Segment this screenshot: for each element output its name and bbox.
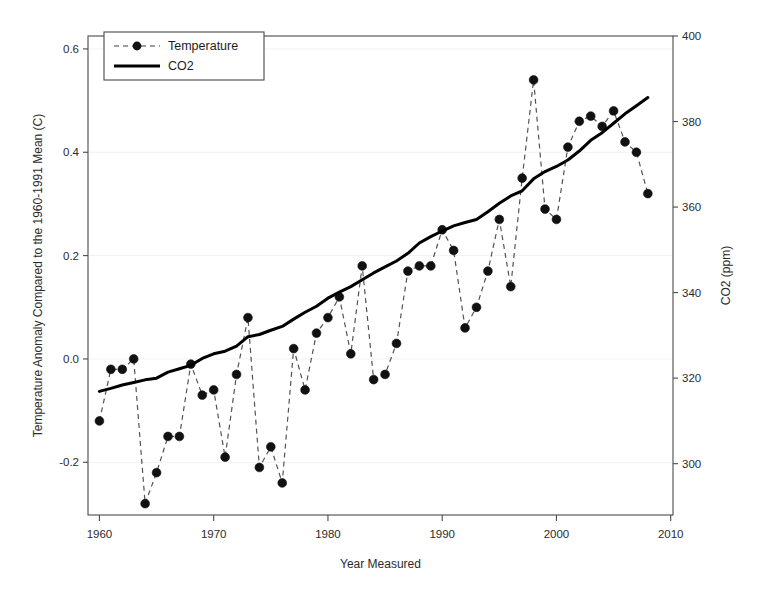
temperature-data-point [381,370,390,379]
temperature-data-point [518,174,527,183]
x-axis-tick-label: 2010 [658,528,684,540]
y2-axis-tick-label: 400 [682,30,701,42]
temperature-data-point [506,282,515,291]
temperature-data-point [609,107,618,116]
temperature-data-point [392,339,401,348]
y2-axis-tick-label: 380 [682,116,701,128]
temperature-data-point [106,365,115,374]
temperature-data-point [209,386,218,395]
x-axis-tick-label: 1970 [201,528,227,540]
temperature-data-point [141,499,150,508]
temperature-data-point [95,417,104,426]
x-axis-title: Year Measured [340,557,421,571]
y-axis-tick-label: 0.0 [63,353,79,365]
temperature-data-point [632,148,641,157]
temperature-data-point [129,355,138,364]
x-axis-tick-label: 1990 [429,528,455,540]
temperature-data-point [575,117,584,126]
legend-temperature-label: Temperature [168,39,238,53]
y2-axis-tick-label: 340 [682,287,701,299]
co2-temperature-line-chart: -0.20.00.20.40.6300320340360380400196019… [0,0,758,592]
y-axis-title: Temperature Anomaly Compared to the 1960… [31,114,45,438]
legend-temperature-marker-swatch [133,42,142,51]
temperature-data-point [495,215,504,224]
temperature-data-point [449,246,458,255]
temperature-data-point [244,313,253,322]
temperature-data-point [484,267,493,276]
y-axis-tick-label: 0.4 [63,146,80,158]
temperature-data-point [563,143,572,152]
temperature-data-point [221,453,230,462]
temperature-data-point [404,267,413,276]
temperature-data-point [346,349,355,358]
x-axis-tick-label: 1960 [87,528,113,540]
y-axis-tick-label: 0.6 [63,43,79,55]
temperature-data-point [289,344,298,353]
temperature-data-point [621,138,630,147]
y2-axis-tick-label: 360 [682,201,701,213]
temperature-data-point [552,215,561,224]
y-axis-tick-label: 0.2 [63,250,79,262]
temperature-data-point [426,262,435,271]
y2-axis-title: CO2 (ppm) [719,246,733,305]
legend-co2-label: CO2 [168,59,194,73]
y2-axis-tick-label: 300 [682,458,701,470]
x-axis-tick-label: 1980 [315,528,341,540]
temperature-data-point [415,262,424,271]
temperature-data-point [586,112,595,121]
temperature-data-point [312,329,321,338]
x-axis-tick-label: 2000 [544,528,570,540]
temperature-data-point [278,479,287,488]
temperature-data-point [324,313,333,322]
temperature-data-point [529,76,538,85]
temperature-data-point [472,303,481,312]
temperature-data-point [118,365,127,374]
temperature-data-point [255,463,264,472]
temperature-data-point [198,391,207,400]
temperature-data-point [358,262,367,271]
temperature-data-point [266,442,275,451]
plot-area-frame [88,36,673,515]
temperature-data-point [164,432,173,441]
temperature-data-point [461,324,470,333]
temperature-data-point [175,432,184,441]
chart-figure: -0.20.00.20.40.6300320340360380400196019… [0,0,758,592]
y2-axis-tick-label: 320 [682,372,701,384]
temperature-data-point [643,189,652,198]
temperature-data-point [369,375,378,384]
temperature-data-point [152,468,161,477]
temperature-data-point [232,370,241,379]
temperature-data-point [301,386,310,395]
y-axis-tick-label: -0.2 [59,456,79,468]
temperature-data-point [541,205,550,214]
